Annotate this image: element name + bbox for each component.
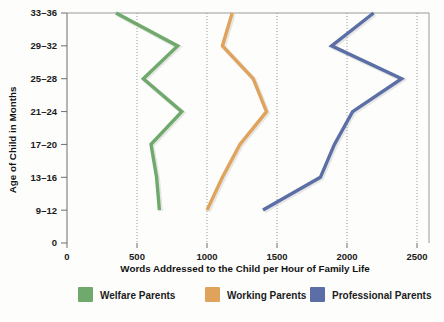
chart-figure: 09–1213–1617–2021–2425–2829–3233–36 0500…	[0, 0, 444, 322]
y-tick-label-13–16: 13–16	[31, 172, 57, 183]
chart-canvas: 09–1213–1617–2021–2425–2829–3233–36 0500…	[0, 0, 444, 322]
y-axis-tick-labels: 09–1213–1617–2021–2425–2829–3233–36	[31, 7, 58, 248]
series-line-welfare-parents	[116, 13, 182, 210]
plot-frame	[67, 13, 429, 243]
y-axis-ticks	[61, 13, 67, 243]
y-tick-label-29–32: 29–32	[31, 40, 57, 51]
legend-label-professional-parents: Professional Parents	[332, 290, 432, 301]
x-axis-ticks	[67, 243, 417, 248]
legend-swatch-professional-parents	[310, 287, 325, 302]
series-shadow-working-parents	[208, 14, 268, 211]
legend-label-welfare-parents: Welfare Parents	[100, 290, 176, 301]
y-tick-label-21–24: 21–24	[31, 106, 58, 117]
x-tick-label-1000: 1000	[196, 251, 217, 262]
y-tick-label-9–12: 9–12	[36, 205, 57, 216]
y-tick-label-33–36: 33–36	[31, 7, 57, 18]
x-axis-title: Words Addressed to the Child per Hour of…	[120, 263, 370, 274]
series-line-professional-parents	[263, 13, 402, 210]
legend-swatch-working-parents	[205, 287, 220, 302]
data-series-group	[116, 13, 403, 211]
x-tick-label-2000: 2000	[336, 251, 357, 262]
x-tick-label-1500: 1500	[266, 251, 287, 262]
legend-swatch-welfare-parents	[78, 287, 93, 302]
x-tick-label-500: 500	[129, 251, 145, 262]
legend-label-working-parents: Working Parents	[227, 290, 307, 301]
y-axis-title: Age of Child in Months	[7, 86, 18, 193]
series-line-working-parents	[207, 13, 267, 210]
y-tick-label-25–28: 25–28	[31, 73, 57, 84]
x-tick-label-0: 0	[64, 251, 69, 262]
y-tick-label-0: 0	[52, 237, 57, 248]
y-tick-label-17–20: 17–20	[31, 139, 57, 150]
x-tick-label-2500: 2500	[406, 251, 427, 262]
x-axis-tick-labels: 05001000150020002500	[64, 251, 427, 262]
chart-legend: Welfare ParentsWorking ParentsProfession…	[78, 287, 432, 302]
